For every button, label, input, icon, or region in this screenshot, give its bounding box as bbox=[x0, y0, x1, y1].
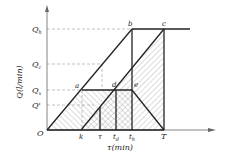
x-label-k: k bbox=[79, 133, 83, 141]
x-label-T: T bbox=[161, 132, 167, 141]
y-axis-arrow-icon bbox=[45, 5, 49, 12]
flow-time-diagram: Q(l/min) Qh Qc Qx Q' O k τ td th T τ(min… bbox=[0, 0, 230, 161]
x-axis-label: τ(min) bbox=[107, 143, 133, 152]
y-label-qc: Qc bbox=[32, 60, 42, 70]
y-axis-label: Q(l/min) bbox=[15, 65, 24, 98]
point-label-d: d bbox=[112, 81, 117, 89]
point-label-c: c bbox=[162, 20, 166, 28]
x-axis-arrow-icon bbox=[208, 128, 216, 132]
y-label-qh: Qh bbox=[32, 25, 42, 35]
y-label-qprime: Q' bbox=[32, 101, 41, 110]
point-label-a: a bbox=[75, 82, 79, 90]
y-label-qx: Qx bbox=[32, 86, 42, 96]
point-label-e: e bbox=[134, 81, 138, 89]
origin-label: O bbox=[37, 129, 44, 138]
point-label-b: b bbox=[128, 20, 133, 28]
x-label-th: th bbox=[129, 133, 135, 142]
x-label-tau: τ bbox=[98, 133, 102, 141]
x-label-td: td bbox=[113, 133, 119, 142]
